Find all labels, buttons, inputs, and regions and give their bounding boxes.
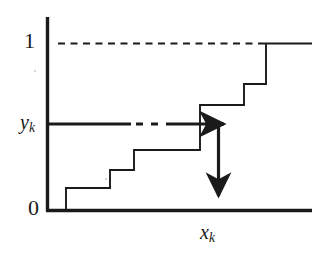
y-axis-tick-label-zero: 0 — [28, 197, 39, 219]
x-value-label-xk: xk — [200, 222, 215, 245]
scan-speck — [34, 70, 36, 72]
scan-speck — [105, 178, 107, 180]
yk-base: y — [20, 111, 29, 133]
figure-canvas: 1 0 yk xk — [0, 0, 312, 254]
step-function-plot — [0, 0, 312, 254]
y-value-label-yk: yk — [20, 112, 35, 135]
y-axis-tick-label-one: 1 — [24, 30, 35, 52]
xk-base: x — [200, 221, 209, 243]
yk-subscript: k — [29, 120, 35, 135]
xk-subscript: k — [209, 230, 215, 245]
empirical-cdf-step-curve — [47, 44, 312, 211]
